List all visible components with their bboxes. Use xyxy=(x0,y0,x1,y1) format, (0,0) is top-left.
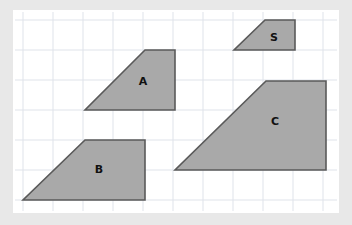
shape-s xyxy=(234,20,295,50)
shape-b-label: B xyxy=(95,163,103,176)
shape-c xyxy=(175,81,326,170)
shape-s-label: S xyxy=(270,31,278,44)
worksheet-canvas: ABCS xyxy=(0,0,352,225)
shapes-figure: ABCS xyxy=(0,0,352,225)
shape-a-label: A xyxy=(139,75,148,88)
shape-c-label: C xyxy=(271,115,279,128)
